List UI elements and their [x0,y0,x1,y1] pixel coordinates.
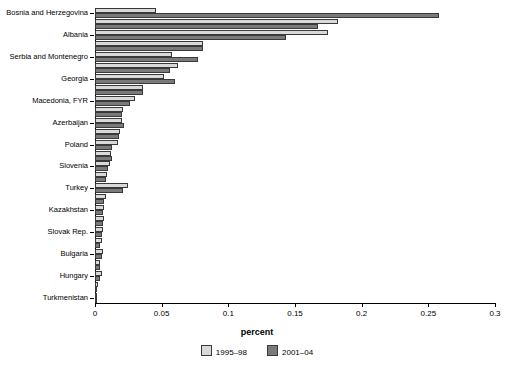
bar [95,232,102,237]
bar [95,112,122,117]
y-tick [90,101,94,102]
bar [95,101,130,106]
bar [95,134,119,139]
x-tick [162,303,163,307]
x-tick-label: 0.2 [356,309,367,318]
bar [95,276,100,281]
category-label: Georgia [0,74,88,83]
bar [95,166,108,171]
x-tick-label: 0.3 [489,309,500,318]
bar [95,90,143,95]
bar [95,177,106,182]
legend-swatch [201,345,212,356]
y-tick [90,254,94,255]
y-tick [90,298,94,299]
category-label: Albania [0,30,88,39]
category-label: Hungary [0,271,88,280]
bar [95,188,123,193]
category-label: Serbia and Montenegro [0,52,88,61]
bar [95,156,112,161]
bar [95,123,124,128]
bar [95,199,104,204]
bar [95,210,103,215]
category-label: Macedonia, FYR [0,96,88,105]
legend-entry: 1995–98 [201,348,247,357]
x-tick [295,303,296,307]
category-label: Poland [0,140,88,149]
y-tick [90,276,94,277]
x-tick-label: 0.15 [287,309,303,318]
x-tick-label: 0 [93,309,97,318]
y-tick [90,232,94,233]
bar [95,243,100,248]
category-label: Slovenia [0,161,88,170]
legend-label: 2001–04 [282,348,313,357]
legend-label: 1995–98 [216,348,247,357]
category-label: Turkey [0,183,88,192]
x-tick-label: 0.25 [421,309,437,318]
bar [95,145,112,150]
bar [95,298,97,303]
x-tick-label: 0.05 [154,309,170,318]
category-label: Kazakhstan [0,205,88,214]
category-label: Bosnia and Herzegovina [0,8,88,17]
x-tick-label: 0.1 [223,309,234,318]
x-tick [428,303,429,307]
y-tick [90,123,94,124]
y-tick [90,79,94,80]
category-label: Azerbaijan [0,118,88,127]
legend-swatch [267,345,278,356]
y-tick [90,188,94,189]
bar [95,57,198,62]
y-tick [90,210,94,211]
y-tick [90,145,94,146]
chart-root: 00.050.10.150.20.250.3 percent 1995–9820… [0,0,514,369]
category-label: Bulgaria [0,249,88,258]
bar [95,265,100,270]
x-tick [95,303,96,307]
x-axis-label: percent [0,327,514,337]
legend-entry: 2001–04 [267,348,313,357]
chart-legend: 1995–982001–04 [0,345,514,357]
bar [95,46,203,51]
y-tick [90,13,94,14]
y-tick [90,166,94,167]
bar [95,79,175,84]
bar [95,24,318,29]
y-tick [90,57,94,58]
bar [95,287,97,292]
x-tick [228,303,229,307]
category-label: Turkmenistan [0,293,88,302]
bar [95,13,439,18]
y-tick [90,35,94,36]
bar [95,68,170,73]
x-tick [495,303,496,307]
bar [95,221,103,226]
bar [95,254,102,259]
bar [95,35,286,40]
category-label: Slovak Rep. [0,227,88,236]
x-tick [362,303,363,307]
